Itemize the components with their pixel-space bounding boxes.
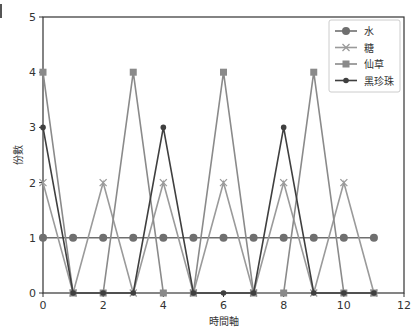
data-point [280, 234, 288, 242]
data-point [130, 69, 137, 76]
data-point [160, 290, 167, 297]
data-point [370, 234, 378, 242]
data-point [191, 290, 197, 296]
data-point [69, 234, 77, 242]
y-tick-label: 1 [29, 232, 36, 245]
legend-marker-icon [343, 78, 349, 84]
legend-marker-icon [342, 27, 350, 35]
data-point [280, 290, 287, 297]
y-tick-label: 3 [29, 121, 36, 134]
y-axis-label: 份數 [12, 145, 24, 165]
legend-label: 黑珍珠 [364, 75, 394, 87]
data-point [70, 290, 76, 296]
data-point [99, 234, 107, 242]
data-point [221, 290, 227, 296]
data-point [310, 69, 317, 76]
data-point [311, 290, 317, 296]
line-chart: 024681012012345時間軸份數水糖仙草黑珍珠 [0, 0, 417, 336]
series-line-2 [43, 72, 374, 293]
data-point [189, 234, 197, 242]
y-tick-label: 4 [29, 66, 36, 79]
data-point [281, 125, 287, 131]
data-point [220, 234, 228, 242]
data-point [220, 69, 227, 76]
legend-label: 水 [364, 26, 374, 37]
x-tick-label: 0 [40, 299, 47, 312]
data-point [100, 290, 106, 296]
y-tick-label: 2 [29, 177, 36, 190]
y-tick-label: 5 [29, 11, 36, 24]
data-point [40, 125, 46, 131]
x-tick-label: 12 [397, 299, 411, 312]
x-axis-label: 時間軸 [209, 315, 239, 327]
legend-label: 仙草 [364, 58, 384, 70]
y-tick-label: 0 [29, 287, 36, 300]
data-point [161, 125, 167, 131]
data-point [310, 234, 318, 242]
x-tick-label: 10 [337, 299, 351, 312]
x-tick-label: 4 [160, 299, 167, 312]
data-point [39, 234, 47, 242]
data-point [250, 234, 258, 242]
data-point [251, 290, 257, 296]
x-tick-label: 6 [220, 299, 227, 312]
x-tick-label: 8 [280, 299, 287, 312]
data-point [340, 234, 348, 242]
x-tick-label: 2 [100, 299, 107, 312]
data-point [371, 290, 377, 296]
data-point [341, 290, 347, 296]
legend-label: 糖 [364, 42, 374, 54]
legend-marker-icon [343, 61, 350, 68]
data-point [159, 234, 167, 242]
data-point [129, 234, 137, 242]
data-point [40, 69, 47, 76]
data-point [130, 290, 136, 296]
